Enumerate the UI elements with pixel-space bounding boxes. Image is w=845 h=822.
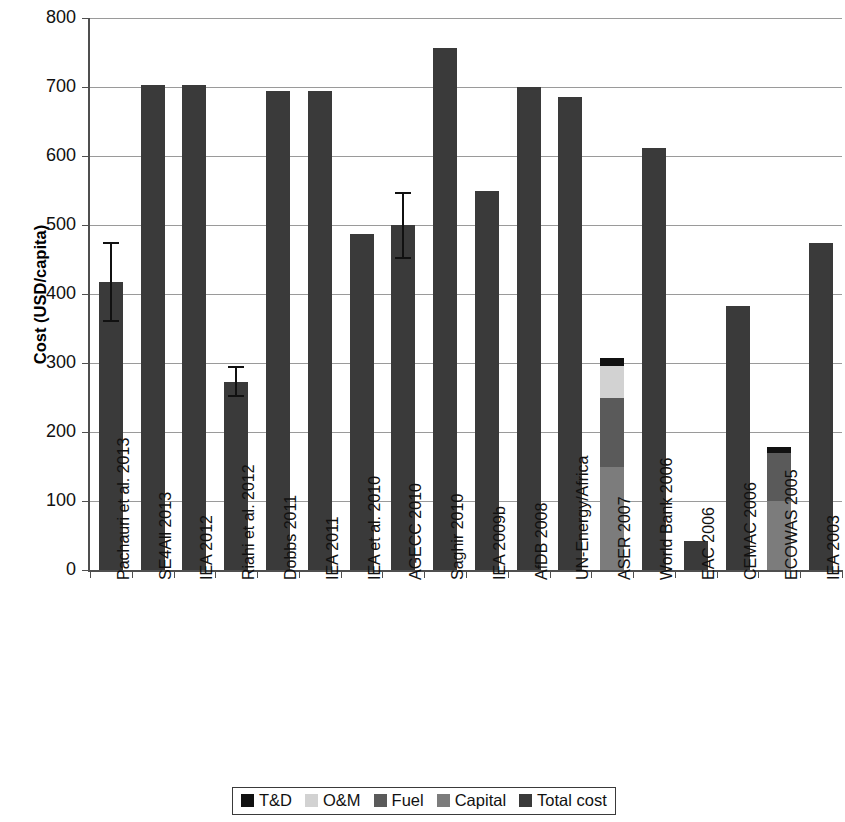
legend-label: T&D xyxy=(259,791,292,810)
y-tick-label: 600 xyxy=(6,145,76,166)
x-tick-label: IEA 2012 xyxy=(198,515,216,580)
y-tick-label: 400 xyxy=(6,283,76,304)
bar-chart: Cost (USD/capita) 8007006005004003002001… xyxy=(0,0,845,822)
legend-item: Fuel xyxy=(374,791,424,810)
square-swatch-icon xyxy=(437,794,450,807)
error-bar xyxy=(228,366,244,397)
bar xyxy=(182,85,206,570)
y-tick-mark xyxy=(82,294,90,295)
x-tick-label: Dobbs 2011 xyxy=(282,495,300,580)
chart-legend: T&DO&MFuelCapitalTotal cost xyxy=(232,787,616,815)
square-swatch-icon xyxy=(305,794,318,807)
x-tick-label: ECOWAS 2005 xyxy=(783,469,801,580)
y-tick-mark xyxy=(82,156,90,157)
legend-item: T&D xyxy=(241,791,292,810)
x-tick-label: ASER 2007 xyxy=(616,496,634,580)
error-bar-cap-bottom xyxy=(103,320,119,322)
bar xyxy=(308,91,332,570)
bar-segment-total-cost xyxy=(182,85,206,570)
y-tick-label: 500 xyxy=(6,214,76,235)
x-tick-label: AfDB 2008 xyxy=(533,503,551,580)
x-tick-label: IEA 2011 xyxy=(324,516,342,580)
y-tick-mark xyxy=(82,18,90,19)
error-bar xyxy=(103,242,119,321)
square-swatch-icon xyxy=(374,794,387,807)
y-tick-mark xyxy=(82,87,90,88)
y-tick-label: 300 xyxy=(6,352,76,373)
square-swatch-icon xyxy=(241,794,254,807)
x-tick-label: IEA et al. 2010 xyxy=(366,476,384,580)
x-tick-label: IEA 2003 xyxy=(825,515,843,580)
y-tick-mark xyxy=(82,225,90,226)
legend-item: Total cost xyxy=(519,791,607,810)
x-tick-label: Riahi et al. 2012 xyxy=(240,464,258,580)
x-tick-label: CEMAC 2006 xyxy=(742,482,760,580)
error-bar-line xyxy=(235,366,237,397)
y-tick-mark xyxy=(82,363,90,364)
legend-label: O&M xyxy=(323,791,361,810)
bar xyxy=(433,48,457,570)
plot-area: 8007006005004003002001000 xyxy=(88,18,842,572)
y-tick-label: 200 xyxy=(6,421,76,442)
error-bar-cap-bottom xyxy=(228,395,244,397)
bar-segment-total-cost xyxy=(517,87,541,570)
y-tick-label: 100 xyxy=(6,490,76,511)
x-tick-label: EAC 2006 xyxy=(700,507,718,580)
bar-segment-t-d xyxy=(600,358,624,366)
legend-label: Capital xyxy=(455,791,506,810)
x-tick-label: UN-Energy/Africa xyxy=(574,456,592,580)
error-bar-line xyxy=(402,192,404,260)
bar-segment-total-cost xyxy=(433,48,457,570)
error-bar xyxy=(395,192,411,260)
x-tick-label: Saghir 2010 xyxy=(449,494,467,580)
x-tick-label: SE4All 2013 xyxy=(157,492,175,580)
gridline xyxy=(90,18,842,19)
legend-label: Total cost xyxy=(537,791,607,810)
y-tick-mark xyxy=(82,501,90,502)
bar-segment-o-m xyxy=(600,366,624,397)
x-tick-label: IEA 2009b xyxy=(491,506,509,580)
bar-segment-total-cost xyxy=(308,91,332,570)
y-tick-label: 700 xyxy=(6,76,76,97)
bar-segment-t-d xyxy=(767,447,791,453)
legend-item: O&M xyxy=(305,791,361,810)
square-swatch-icon xyxy=(519,794,532,807)
legend-label: Fuel xyxy=(392,791,424,810)
bar xyxy=(517,87,541,570)
x-tick-label: Pachauri et al. 2013 xyxy=(115,438,133,580)
bar-segment-fuel xyxy=(600,398,624,467)
x-tick-label: AGECC 2010 xyxy=(407,483,425,580)
error-bar-cap-bottom xyxy=(395,257,411,259)
error-bar-line xyxy=(110,242,112,321)
y-tick-label: 800 xyxy=(6,7,76,28)
x-tick-label: World Bank 2006 xyxy=(658,458,676,580)
x-axis-labels: Pachauri et al. 2013SE4All 2013IEA 2012R… xyxy=(88,578,840,763)
y-tick-mark xyxy=(82,570,90,571)
y-tick-mark xyxy=(82,432,90,433)
legend-item: Capital xyxy=(437,791,506,810)
y-tick-label: 0 xyxy=(6,559,76,580)
x-tick-mark xyxy=(90,570,91,578)
